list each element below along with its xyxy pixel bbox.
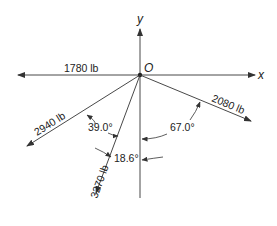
angle-39-marker: 39.0° [87,115,118,136]
force-2080-label: 2080 lb [210,92,247,116]
origin-label: O [144,61,153,75]
force-diagram: x 1780 lb y O 2080 lb 2940 lb 3270 lb 39… [0,0,277,226]
x-axis-label: x [257,68,265,82]
y-axis: y [136,12,144,198]
angle-67-marker: 67.0° [142,102,200,139]
y-axis-label: y [136,12,144,26]
force-3270-lb: 3270 lb [88,75,140,200]
force-2080-lb: 2080 lb [140,75,251,121]
force-2940-label: 2940 lb [32,109,68,138]
force-1780-lb: 1780 lb [18,62,140,75]
x-axis: x [140,68,265,82]
force-1780-label: 1780 lb [64,62,99,74]
angle-67-label: 67.0° [170,121,195,133]
angle-18-marker: 18.6° [95,148,163,164]
force-2940-lb: 2940 lb [27,75,140,146]
angle-18-label: 18.6° [114,152,139,164]
angle-39-label: 39.0° [88,121,113,133]
force-3270-label: 3270 lb [88,163,111,200]
